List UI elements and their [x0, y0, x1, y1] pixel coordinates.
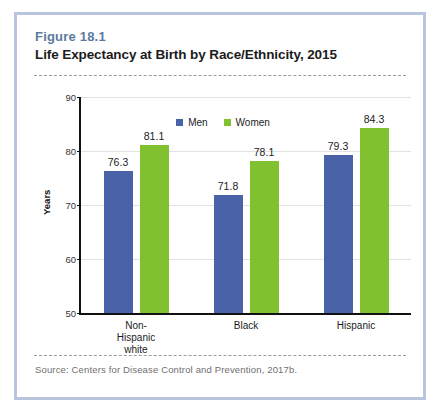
bar-group: 76.381.1Non-Hispanic white	[104, 97, 169, 313]
bar-men[interactable]: 76.3	[104, 97, 133, 313]
y-axis-tick-label: 80	[65, 146, 76, 157]
bar-chart: Years Men Women 5060708090 76.381.1Non-H…	[27, 87, 419, 349]
bar-value-label: 71.8	[218, 180, 238, 192]
plot-area: 5060708090 76.381.1Non-Hispanic white71.…	[79, 97, 411, 315]
figure-title: Life Expectancy at Birth by Race/Ethnici…	[35, 47, 337, 62]
y-axis-tick-label: 70	[65, 200, 76, 211]
bar-women[interactable]: 78.1	[250, 97, 279, 313]
y-axis-tick-label: 90	[65, 92, 76, 103]
divider-top	[34, 75, 406, 76]
bar-women[interactable]: 84.3	[360, 97, 389, 313]
y-axis-title: Years	[41, 190, 52, 215]
bar-women[interactable]: 81.1	[140, 97, 169, 313]
y-axis-tick	[77, 313, 81, 314]
bar-value-label: 81.1	[144, 130, 164, 142]
bar-men[interactable]: 71.8	[214, 97, 243, 313]
x-axis-category-label: Hispanic	[337, 320, 375, 332]
bar-rect[interactable]	[360, 128, 389, 313]
x-axis-category-label: Non-Hispanic white	[117, 320, 155, 356]
bar-value-label: 78.1	[254, 146, 274, 158]
bar-groups: 76.381.1Non-Hispanic white71.878.1Black7…	[81, 97, 411, 313]
source-note: Source: Centers for Disease Control and …	[35, 364, 297, 375]
bar-rect[interactable]	[140, 145, 169, 313]
bar-value-label: 76.3	[108, 156, 128, 168]
y-axis-tick-label: 50	[65, 308, 76, 319]
bar-rect[interactable]	[214, 195, 243, 313]
bar-men[interactable]: 79.3	[324, 97, 353, 313]
figure-inner: Figure 18.1 Life Expectancy at Birth by …	[17, 15, 423, 397]
figure-number: Figure 18.1	[35, 29, 106, 44]
bar-value-label: 79.3	[328, 140, 348, 152]
x-axis-category-label: Black	[234, 320, 258, 332]
figure-card: Figure 18.1 Life Expectancy at Birth by …	[14, 12, 426, 400]
bar-rect[interactable]	[104, 171, 133, 313]
bar-group: 71.878.1Black	[214, 97, 279, 313]
bar-group: 79.384.3Hispanic	[324, 97, 389, 313]
y-axis-tick-label: 60	[65, 254, 76, 265]
bar-rect[interactable]	[324, 155, 353, 313]
bar-rect[interactable]	[250, 161, 279, 313]
bar-value-label: 84.3	[364, 113, 384, 125]
divider-bottom	[34, 355, 406, 356]
